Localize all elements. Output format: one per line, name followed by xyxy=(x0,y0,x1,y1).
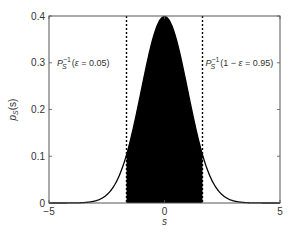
annotation-sub: S xyxy=(62,63,67,70)
x-axis-label: s xyxy=(162,216,167,227)
y-axis-label: pS(s) xyxy=(7,99,19,122)
x-tick-label: 5 xyxy=(277,206,283,217)
annotation-upper-quantile: P−1S(1 − ε = 0.95) xyxy=(205,56,273,70)
annotation-sup: −1 xyxy=(63,56,71,63)
annotation-sub: S xyxy=(210,63,215,70)
y-tick-label: 0.4 xyxy=(31,11,45,22)
plot-area xyxy=(49,16,280,203)
y-tick-label: 0.1 xyxy=(31,151,45,162)
pdf-chart: −50500.10.20.30.4 s pS(s) P−1S(ε = 0.05)… xyxy=(0,0,295,237)
y-tick-label: 0.3 xyxy=(31,57,45,68)
annotation-open: (1 − xyxy=(220,58,238,68)
x-tick-label: −5 xyxy=(43,206,55,217)
annotation-lower-quantile: P−1S(ε = 0.05) xyxy=(57,56,109,70)
annotation-sup: −1 xyxy=(212,56,220,63)
y-tick-label: 0 xyxy=(39,198,45,209)
y-axis-label-arg: (s) xyxy=(7,99,18,111)
y-tick-label: 0.2 xyxy=(31,104,45,115)
annotation-rest: = 0.95) xyxy=(242,58,273,68)
annotation-rest: = 0.05) xyxy=(79,58,110,68)
